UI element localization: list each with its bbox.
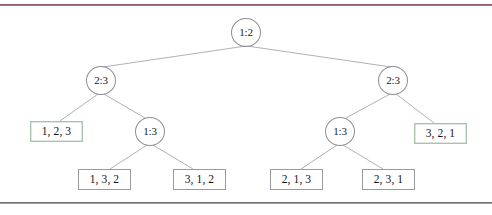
tree-edge (60, 94, 98, 121)
tree-leaf-213[interactable]: 2, 1, 3 (270, 169, 323, 190)
tree-leaf-123[interactable]: 1, 2, 3 (30, 121, 83, 142)
bottom-divider-rule (0, 202, 492, 204)
tree-node-right-1-3[interactable]: 1:3 (325, 117, 355, 146)
tree-leaf-label: 2, 1, 3 (282, 174, 311, 186)
tree-edge (247, 46, 391, 67)
tree-edge (301, 145, 337, 169)
tree-node-right-2-3[interactable]: 2:3 (378, 66, 408, 95)
tree-edge (103, 46, 246, 67)
tree-leaf-label: 1, 2, 3 (42, 126, 71, 138)
tree-edge (346, 94, 390, 118)
tree-edge (396, 94, 434, 123)
tree-node-left-1-3[interactable]: 1:3 (135, 117, 165, 146)
tree-leaf-label: 3, 2, 1 (426, 128, 455, 140)
tree-leaf-label: 2, 3, 1 (374, 174, 403, 186)
tree-edge (153, 145, 193, 169)
tree-edge (343, 145, 383, 169)
tree-leaf-231[interactable]: 2, 3, 1 (362, 169, 415, 190)
tree-leaf-312[interactable]: 3, 1, 2 (173, 169, 226, 190)
tree-edge (110, 145, 147, 169)
tree-leaf-321[interactable]: 3, 2, 1 (414, 123, 467, 144)
tree-node-label: 1:3 (143, 126, 156, 137)
tree-leaf-label: 1, 3, 2 (90, 174, 119, 186)
tree-node-label: 2:3 (94, 75, 107, 86)
figure-page: 1:2 2:3 2:3 1:3 1:3 1, 2, 3 3, 2, 1 1, 3… (0, 0, 492, 215)
tree-edge (104, 94, 145, 118)
top-divider-rule (0, 4, 492, 6)
tree-leaf-132[interactable]: 1, 3, 2 (78, 169, 131, 190)
tree-node-label: 1:3 (333, 126, 346, 137)
tree-node-root[interactable]: 1:2 (231, 18, 261, 47)
tree-node-label: 2:3 (386, 75, 399, 86)
tree-leaf-label: 3, 1, 2 (185, 174, 214, 186)
tree-node-left-2-3[interactable]: 2:3 (86, 66, 116, 95)
tree-node-label: 1:2 (239, 27, 252, 38)
decision-tree-diagram: 1:2 2:3 2:3 1:3 1:3 1, 2, 3 3, 2, 1 1, 3… (0, 8, 492, 200)
